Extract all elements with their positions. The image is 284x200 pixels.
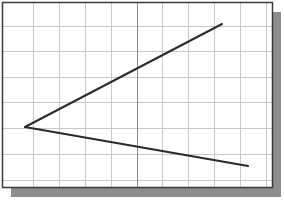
angle-diagram bbox=[0, 0, 284, 200]
diagram-stage bbox=[0, 0, 284, 200]
